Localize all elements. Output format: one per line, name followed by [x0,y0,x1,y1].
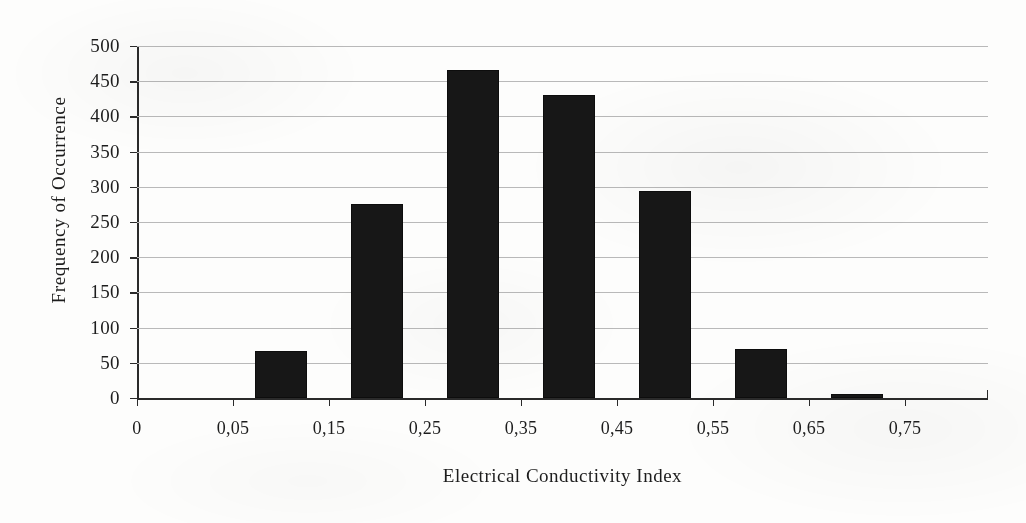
bar-045 [639,191,691,398]
x-tick-label-0: 0 [132,418,141,439]
y-tick-450: 450 [130,81,137,82]
x-axis-line [137,398,988,400]
y-tick-label-500: 500 [90,35,120,57]
plot-area: 500 450 400 350 300 250 200 150 [137,46,988,398]
bar-065 [831,394,883,398]
y-tick-400: 400 [130,116,137,117]
x-tick-label-035: 0,35 [505,418,538,439]
bar-055 [735,349,787,398]
x-tick-label-075: 0,75 [889,418,922,439]
y-tick-350: 350 [130,152,137,153]
x-axis-label: Electrical Conductivity Index [137,465,988,487]
y-tick-500: 500 [130,46,137,47]
bar-005 [255,351,307,398]
bar-015 [351,204,403,398]
y-tick-50: 50 [130,363,137,364]
y-tick-label-150: 150 [90,281,120,303]
y-tick-label-450: 450 [90,70,120,92]
x-tick-015 [329,398,330,406]
bar-025 [447,70,499,398]
y-tick-label-300: 300 [90,176,120,198]
x-tick-label-055: 0,55 [697,418,730,439]
x-tick-label-065: 0,65 [793,418,826,439]
x-tick-005 [233,398,234,406]
y-tick-label-350: 350 [90,141,120,163]
y-tick-300: 300 [130,187,137,188]
gridline-450 [137,81,988,82]
x-tick-065 [809,398,810,406]
y-tick-200: 200 [130,257,137,258]
x-tick-055 [713,398,714,406]
y-axis-label: Frequency of Occurrence [48,50,74,350]
bar-035 [543,95,595,398]
y-tick-0: 0 [130,398,137,399]
x-tick-0 [137,398,138,406]
y-tick-150: 150 [130,292,137,293]
y-tick-250: 250 [130,222,137,223]
x-tick-label-005: 0,05 [217,418,250,439]
chart-page: 500 450 400 350 300 250 200 150 [0,0,1026,523]
y-tick-label-250: 250 [90,211,120,233]
y-tick-label-100: 100 [90,317,120,339]
y-tick-label-50: 50 [100,352,120,374]
y-tick-100: 100 [130,328,137,329]
y-tick-label-200: 200 [90,246,120,268]
gridline-500 [137,46,988,47]
x-tick-label-015: 0,15 [313,418,346,439]
x-tick-label-045: 0,45 [601,418,634,439]
y-tick-label-0: 0 [110,387,120,409]
x-axis-end-cap [987,390,988,399]
x-tick-025 [425,398,426,406]
x-tick-045 [617,398,618,406]
x-tick-035 [521,398,522,406]
y-tick-label-400: 400 [90,105,120,127]
x-tick-075 [905,398,906,406]
x-tick-label-025: 0,25 [409,418,442,439]
